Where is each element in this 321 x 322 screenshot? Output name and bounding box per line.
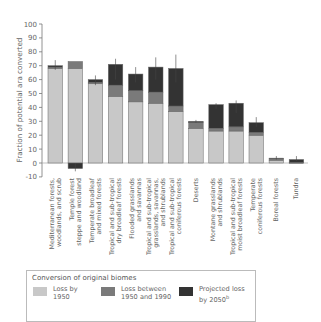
bar-segment — [149, 103, 164, 163]
bar-stack — [229, 100, 244, 163]
bar-stack — [128, 67, 143, 163]
x-tick-label: Temple foreststeppe and woodland — [68, 177, 83, 245]
bar-segment — [68, 68, 83, 163]
bar-segment — [68, 62, 83, 69]
y-tick-label: 100 — [24, 21, 37, 29]
bar-segment — [169, 106, 184, 112]
y-axis: -100102030405060708090100 — [24, 21, 308, 182]
legend-item-loss-by-1950: Loss by 1950 — [33, 285, 78, 301]
bar-stack — [68, 62, 83, 172]
bar-segment — [269, 160, 284, 163]
bar-stack — [189, 120, 204, 163]
x-tick-label: Tropical and sub-tropicalmoist broadleaf… — [229, 178, 243, 256]
bar-segment — [249, 132, 264, 135]
legend: Conversion of original biomes Loss by 19… — [26, 270, 256, 322]
bar-stack — [289, 156, 304, 163]
y-tick-label: 40 — [28, 104, 37, 112]
bar-stack — [209, 103, 224, 163]
bar-stack — [169, 55, 184, 163]
bar-stack — [48, 60, 63, 163]
bar-stack — [269, 156, 284, 163]
y-tick-label: 10 — [28, 146, 37, 154]
x-axis-labels: Mediterranean forests,woodlands, and scr… — [48, 177, 300, 256]
x-tick-label: Deserts — [192, 178, 199, 202]
bar-segment — [108, 96, 123, 163]
x-tick-label: Mediterranean forests,woodlands, and scr… — [48, 178, 62, 249]
bar-segment — [128, 102, 143, 163]
legend-swatch-light — [33, 287, 47, 296]
legend-label: Loss by 1950 — [53, 285, 78, 301]
y-tick-label: 90 — [28, 34, 37, 42]
bar-stack — [108, 59, 123, 163]
bar-segment — [48, 68, 63, 163]
x-tick-label: Tropical and sub-tropicaldry broadleaf f… — [108, 178, 123, 256]
y-tick-label: 30 — [28, 118, 37, 126]
x-tick-label: Temperate broadleafand mixed forests — [88, 177, 102, 244]
bar-stack — [149, 57, 164, 163]
x-tick-label: Montane grasslandsand shrublands — [209, 178, 223, 241]
legend-swatch-dark — [179, 287, 193, 296]
bar-segment — [169, 112, 184, 163]
x-tick-label: Boreal forests — [272, 178, 279, 222]
bar-segment — [108, 85, 123, 96]
y-tick-label: 70 — [28, 62, 37, 70]
x-tick-label: Tropical and sub-tropicalconiferous fore… — [168, 178, 182, 256]
bar-segment — [229, 131, 244, 163]
bars-group — [48, 55, 304, 172]
y-tick-label: 80 — [28, 48, 37, 56]
legend-item-projected-2050: Projected loss by 2050b — [179, 285, 245, 304]
bar-segment — [229, 127, 244, 131]
bar-segment — [128, 91, 143, 102]
y-tick-label: 0 — [33, 160, 37, 168]
bar-segment — [149, 92, 164, 103]
bar-segment — [88, 84, 103, 163]
x-tick-label: Tropical and sub-tropicalgrasslands, sav… — [145, 178, 166, 256]
x-tick-label: Flooded grasslandsand savannas — [128, 178, 142, 239]
legend-item-loss-1950-1990: Loss between 1950 and 1990 — [101, 285, 171, 301]
legend-label: Projected loss by 2050b — [199, 285, 245, 304]
bar-segment — [189, 128, 204, 163]
bar-stack — [88, 75, 103, 163]
y-tick-label: 50 — [28, 90, 37, 98]
y-tick-label: 20 — [28, 132, 37, 140]
y-tick-label: -10 — [26, 173, 37, 181]
bar-segment — [209, 128, 224, 131]
legend-swatch-mid — [101, 287, 115, 296]
bar-segment — [249, 135, 264, 163]
y-tick-label: 60 — [28, 76, 37, 84]
y-axis-label: Fraction of potential ara converted — [15, 38, 24, 163]
x-tick-label: Tundra — [292, 178, 299, 200]
bar-segment — [209, 131, 224, 163]
bar-segment — [189, 123, 204, 129]
legend-title: Conversion of original biomes — [32, 274, 136, 282]
x-tick-label: Temperateconiferous forests — [249, 178, 263, 234]
legend-label: Loss between 1950 and 1990 — [121, 285, 171, 301]
bar-stack — [249, 117, 264, 163]
